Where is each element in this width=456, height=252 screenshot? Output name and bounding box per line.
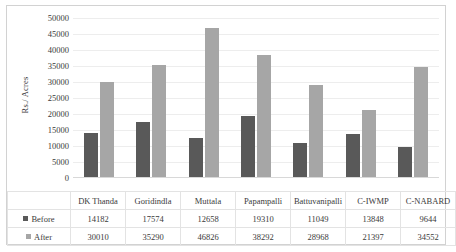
bar-group	[282, 18, 334, 178]
table-category-header: Battuvanipalli	[291, 192, 346, 210]
table-value-cell: 14182	[71, 210, 126, 228]
table-value-cell: 11049	[291, 210, 346, 228]
y-axis-tick-label: 50000	[29, 14, 69, 23]
y-axis-tick-label: 45000	[29, 30, 69, 39]
square-marker-icon	[26, 234, 31, 239]
bar-group	[334, 18, 386, 178]
bar-before[interactable]	[84, 133, 98, 178]
table-category-header: Muttala	[181, 192, 236, 210]
bar-after[interactable]	[100, 82, 114, 178]
chart-container: Rs./ Acres 50000450004000035000300002500…	[6, 5, 446, 245]
y-axis-tick-label: 0	[29, 174, 69, 183]
table-value-cell: 13848	[346, 210, 401, 228]
bar-before[interactable]	[293, 143, 307, 178]
bar-before[interactable]	[189, 138, 203, 179]
table-row-categories: DK ThandaGoridindlaMuttalaPapampalliBatt…	[8, 192, 456, 210]
bar-group	[387, 18, 439, 178]
chart-data-table: DK ThandaGoridindlaMuttalaPapampalliBatt…	[7, 191, 456, 246]
y-axis-tick-label: 20000	[29, 110, 69, 119]
y-axis-tick-label: 5000	[29, 158, 69, 167]
bar-after[interactable]	[309, 85, 323, 178]
bar-group	[125, 18, 177, 178]
table-value-cell: 38292	[236, 228, 291, 246]
bar-after[interactable]	[414, 67, 428, 178]
legend-label: After	[34, 232, 52, 242]
table-value-cell: 35290	[126, 228, 181, 246]
bar-after[interactable]	[257, 55, 271, 178]
y-axis-tick-label: 30000	[29, 78, 69, 87]
legend-item-after[interactable]: After	[8, 228, 71, 246]
table-row: Before1418217574126581931011049138489644	[8, 210, 456, 228]
y-axis-tick-labels: 5000045000400003500030000250002000015000…	[29, 18, 69, 178]
table-value-cell: 21397	[346, 228, 401, 246]
table-value-cell: 28968	[291, 228, 346, 246]
bar-group	[230, 18, 282, 178]
x-axis-baseline	[73, 177, 439, 178]
plot-area	[73, 18, 439, 178]
table-value-cell: 30010	[71, 228, 126, 246]
legend-label: Before	[31, 214, 54, 224]
bar-after[interactable]	[205, 28, 219, 178]
square-marker-icon	[23, 216, 28, 221]
table-value-cell: 34552	[401, 228, 456, 246]
table-category-header: Papampalli	[236, 192, 291, 210]
y-axis-tick-label: 10000	[29, 142, 69, 151]
y-axis-tick-label: 15000	[29, 126, 69, 135]
table-value-cell: 9644	[401, 210, 456, 228]
bar-group	[73, 18, 125, 178]
bar-after[interactable]	[362, 110, 376, 178]
table-value-cell: 19310	[236, 210, 291, 228]
table-value-cell: 17574	[126, 210, 181, 228]
bar-before[interactable]	[346, 134, 360, 178]
bar-after[interactable]	[152, 65, 166, 178]
table-category-header: Goridindla	[126, 192, 181, 210]
table-category-header: C-IWMP	[346, 192, 401, 210]
table-row: After30010352904682638292289682139734552	[8, 228, 456, 246]
bars-layer	[73, 18, 439, 178]
bar-before[interactable]	[398, 147, 412, 178]
data-table: DK ThandaGoridindlaMuttalaPapampalliBatt…	[7, 191, 447, 245]
table-category-header: DK Thanda	[71, 192, 126, 210]
plot-region: Rs./ Acres 50000450004000035000300002500…	[7, 6, 447, 191]
y-axis-tick-label: 40000	[29, 46, 69, 55]
legend-item-before[interactable]: Before	[8, 210, 71, 228]
table-corner-cell	[8, 192, 71, 210]
table-value-cell: 12658	[181, 210, 236, 228]
table-value-cell: 46826	[181, 228, 236, 246]
table-category-header: C-NABARD	[401, 192, 456, 210]
bar-group	[178, 18, 230, 178]
y-axis-tick-label: 35000	[29, 62, 69, 71]
bar-before[interactable]	[241, 116, 255, 178]
bar-before[interactable]	[136, 122, 150, 178]
y-axis-tick-label: 25000	[29, 94, 69, 103]
